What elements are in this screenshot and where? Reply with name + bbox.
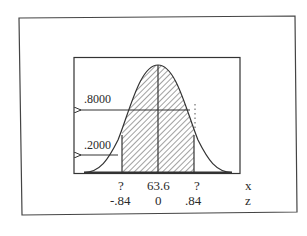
z-value-right: .84	[185, 194, 201, 208]
x-value-right: ?	[194, 179, 200, 193]
x-row-label: x	[245, 179, 252, 193]
z-value-left: -.84	[110, 194, 131, 208]
x-value-left: ?	[118, 179, 124, 193]
z-value-mean: 0	[155, 194, 162, 208]
upper-area-label: .8000	[84, 92, 111, 106]
lower-area-label: .2000	[84, 138, 111, 152]
z-row-label: z	[245, 194, 251, 208]
normal-curve-diagram	[0, 0, 307, 236]
x-value-mean: 63.6	[147, 179, 170, 193]
